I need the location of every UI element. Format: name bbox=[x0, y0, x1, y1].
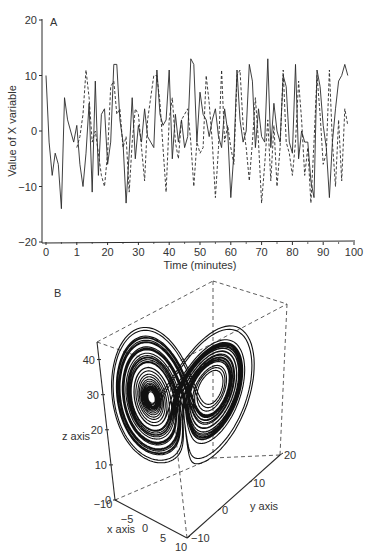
y-tick-label: 0 bbox=[31, 125, 37, 137]
chart-canvas: A 20100−10−20 012030405060708090100 Time… bbox=[0, 0, 374, 552]
x-tick-label: 30 bbox=[132, 246, 144, 258]
axis-tick-label: 0 bbox=[142, 522, 148, 534]
x-tick-label: 20 bbox=[101, 246, 113, 258]
axis-tick-label: 10 bbox=[95, 459, 107, 471]
axis-tick-label: 10 bbox=[253, 477, 265, 489]
panel-b-3d-attractor: B 010203040−10−50510−1001020 z bbox=[54, 281, 296, 552]
x-tick-label: 0 bbox=[43, 246, 49, 258]
panel-b-y-axis bbox=[187, 455, 280, 538]
x-tick-label: 80 bbox=[286, 246, 298, 258]
axis-tick-label: 5 bbox=[160, 532, 166, 544]
panel-a-label: A bbox=[50, 16, 58, 28]
y-tick-label: −20 bbox=[18, 236, 37, 248]
x-tick-label: 100 bbox=[345, 246, 363, 258]
x-tick-label: 90 bbox=[317, 246, 329, 258]
x-tick-label: 1 bbox=[74, 246, 80, 258]
axis-tick-label: 0 bbox=[222, 504, 228, 516]
axis-tick-label: 20 bbox=[91, 424, 103, 436]
lorenz-attractor-trajectory bbox=[112, 326, 255, 464]
x-tick-label: 70 bbox=[255, 246, 267, 258]
panel-a-y-label: Value of X variable bbox=[6, 85, 18, 177]
axis-tick-label: 20 bbox=[284, 449, 296, 461]
y-tick-label: 10 bbox=[25, 70, 37, 82]
axis-tick-label: 40 bbox=[83, 354, 95, 366]
panel-a-y-ticks: 20100−10−20 bbox=[18, 14, 42, 248]
series-dashed bbox=[77, 70, 348, 203]
panel-a-x-label: Time (minutes) bbox=[164, 259, 237, 271]
axis-tick-label: 10 bbox=[175, 541, 187, 552]
axis-tick-label: −10 bbox=[94, 498, 113, 510]
figure: A 20100−10−20 012030405060708090100 Time… bbox=[0, 0, 374, 552]
x-tick-label: 60 bbox=[225, 246, 237, 258]
axis-tick-label: 30 bbox=[87, 389, 99, 401]
y-tick-label: −10 bbox=[18, 181, 37, 193]
panel-b-z-label: z axis bbox=[62, 430, 91, 442]
panel-b-label: B bbox=[54, 287, 61, 299]
panel-a-series bbox=[46, 59, 348, 209]
panel-b-x-label: x axis bbox=[107, 523, 136, 535]
panel-b-y-label: y axis bbox=[250, 500, 279, 512]
x-tick-label: 50 bbox=[194, 246, 206, 258]
y-tick-label: 20 bbox=[25, 14, 37, 26]
panel-a-x-ticks: 012030405060708090100 bbox=[43, 242, 363, 258]
axis-tick-label: −10 bbox=[191, 532, 210, 544]
panel-b-z-axis bbox=[97, 342, 115, 500]
x-tick-label: 40 bbox=[163, 246, 175, 258]
attractor-path bbox=[112, 326, 255, 464]
panel-a-time-series: A 20100−10−20 012030405060708090100 Time… bbox=[6, 14, 363, 271]
